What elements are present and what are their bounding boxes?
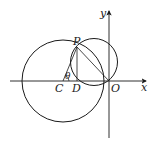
label-p: P [72, 35, 81, 48]
label-o: O [111, 82, 120, 95]
label-d: D [71, 82, 81, 95]
label-x-axis: x [141, 81, 148, 94]
geometry-diagram: P C D O x y θ [0, 0, 155, 146]
segment-po [77, 47, 109, 81]
label-c: C [55, 82, 64, 95]
label-theta: θ [65, 71, 71, 81]
label-y-axis: y [99, 7, 107, 20]
